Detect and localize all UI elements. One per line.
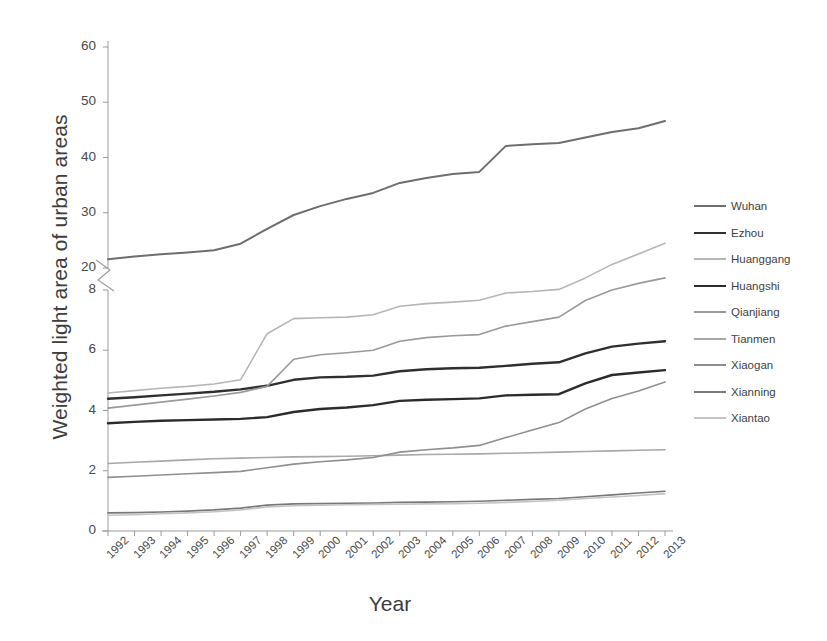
series-line-xianning — [108, 491, 665, 513]
legend-swatch-icon — [694, 364, 726, 366]
series-line-wuhan — [108, 121, 665, 259]
legend-item-xiaogan[interactable]: Xiaogan — [694, 352, 827, 379]
legend-item-xianning[interactable]: Xianning — [694, 379, 827, 406]
legend-item-label: Huanggang — [731, 253, 790, 265]
legend-item-label: Tianmen — [731, 333, 775, 345]
series-line-qianjiang — [108, 278, 665, 408]
legend-item-label: Huangshi — [731, 280, 780, 292]
x-axis-title: Year — [290, 592, 490, 616]
legend-item-label: Xianning — [731, 386, 776, 398]
legend-swatch-icon — [694, 285, 726, 287]
legend-item-xiantao[interactable]: Xiantao — [694, 405, 827, 432]
y-axis-break-marker — [96, 260, 114, 291]
series-line-tianmen — [108, 450, 665, 464]
series-line-ezhou — [108, 341, 665, 399]
legend-swatch-icon — [694, 417, 726, 419]
figure-caption — [8, 628, 708, 641]
legend-item-label: Wuhan — [731, 200, 767, 212]
legend-item-label: Xiantao — [731, 412, 770, 424]
series-line-huanggang — [108, 243, 665, 393]
legend-item-label: Ezhou — [731, 227, 764, 239]
series-line-xiaogan — [108, 382, 665, 478]
legend-swatch-icon — [694, 311, 726, 313]
legend-swatch-icon — [694, 338, 726, 340]
legend-item-tianmen[interactable]: Tianmen — [694, 326, 827, 353]
legend-swatch-icon — [694, 205, 726, 207]
legend-item-ezhou[interactable]: Ezhou — [694, 220, 827, 247]
legend-item-huangshi[interactable]: Huangshi — [694, 273, 827, 300]
legend-item-label: Xiaogan — [731, 359, 773, 371]
legend: WuhanEzhouHuanggangHuangshiQianjiangTian… — [694, 193, 827, 432]
series-line-huangshi — [108, 370, 665, 423]
legend-swatch-icon — [694, 391, 726, 393]
legend-item-label: Qianjiang — [731, 306, 780, 318]
legend-item-huanggang[interactable]: Huanggang — [694, 246, 827, 273]
legend-swatch-icon — [694, 232, 726, 234]
legend-item-wuhan[interactable]: Wuhan — [694, 193, 827, 220]
figure-container: Weighted light area of urban areas 20304… — [0, 0, 827, 641]
legend-swatch-icon — [694, 258, 726, 260]
legend-item-qianjiang[interactable]: Qianjiang — [694, 299, 827, 326]
